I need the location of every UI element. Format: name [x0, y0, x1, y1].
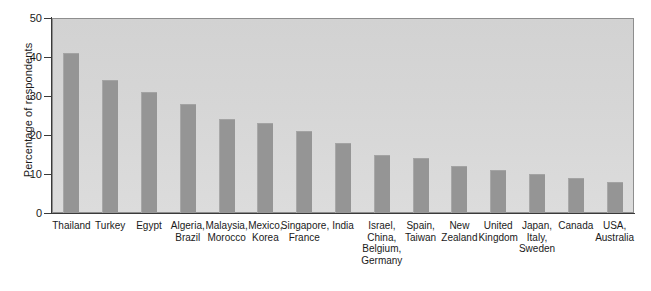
bar [180, 104, 196, 213]
y-axis-tick [44, 96, 51, 97]
y-axis-tick-labels: 01020304050 [0, 0, 42, 291]
bar [529, 174, 545, 213]
bar [490, 170, 506, 213]
y-axis-tick-label: 10 [2, 168, 42, 180]
y-axis-tick-label: 0 [2, 207, 42, 219]
bar [219, 119, 235, 213]
bar [257, 123, 273, 213]
y-axis-tick-label: 40 [2, 51, 42, 63]
bar [413, 158, 429, 213]
x-axis-category-label: USA, Australia [591, 220, 638, 243]
bar [63, 53, 79, 213]
bar [141, 92, 157, 213]
x-axis-line [51, 213, 635, 214]
bar [335, 143, 351, 213]
bar [296, 131, 312, 213]
y-axis-tick-label: 20 [2, 129, 42, 141]
y-axis-tick-label: 30 [2, 90, 42, 102]
y-axis-tick [44, 135, 51, 136]
bar [568, 178, 584, 213]
y-axis-tick [44, 213, 51, 214]
y-axis-tick [44, 18, 51, 19]
x-axis-category-labels: ThailandTurkeyEgyptAlgeria, BrazilMalays… [52, 220, 634, 291]
bar-chart: Percentage of respondents 01020304050 Th… [0, 0, 651, 291]
y-axis-tick [44, 57, 51, 58]
bar [102, 80, 118, 213]
bar [374, 155, 390, 214]
bar [451, 166, 467, 213]
y-axis-tick-label: 50 [2, 12, 42, 24]
bars-layer [52, 18, 634, 213]
bar [607, 182, 623, 213]
y-axis-tick [44, 174, 51, 175]
